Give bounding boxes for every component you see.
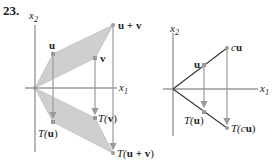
label-Tupv: T(u + v): [117, 147, 154, 160]
point-u: [202, 63, 206, 67]
point-Tcu: [225, 126, 229, 130]
right-diagram: x2 x1 u cu T(u) T(cu): [163, 22, 269, 136]
x1-axis-label: x1: [259, 82, 269, 97]
label-u: u: [194, 58, 200, 70]
label-Tu: T(u): [38, 127, 58, 140]
left-diagram: x2 x1 u v u + v T(u) T(v) T(u + v): [25, 9, 154, 160]
point-origin: [33, 86, 37, 90]
point-Tupv: [111, 151, 115, 155]
x2-axis-label: x2: [169, 22, 179, 37]
point-u-plus-v: [111, 23, 115, 27]
label-cu: cu: [231, 41, 242, 53]
x1-axis-label: x1: [118, 81, 128, 96]
x2-axis-label: x2: [28, 9, 38, 24]
label-Tcu: T(cu): [231, 122, 256, 135]
label-u: u: [49, 39, 55, 51]
label-u-plus-v: u + v: [118, 19, 142, 31]
label-Tv: T(v): [98, 112, 117, 125]
point-Tv: [93, 116, 97, 120]
point-u: [51, 52, 55, 56]
label-Tu: T(u): [184, 114, 204, 127]
diagram-canvas: x2 x1 u v u + v T(u) T(v) T(u + v): [0, 0, 273, 166]
figure: 23.: [0, 0, 273, 166]
label-v: v: [100, 52, 106, 64]
point-Tu: [51, 120, 55, 124]
point-cu: [225, 46, 229, 50]
point-v: [93, 56, 97, 60]
